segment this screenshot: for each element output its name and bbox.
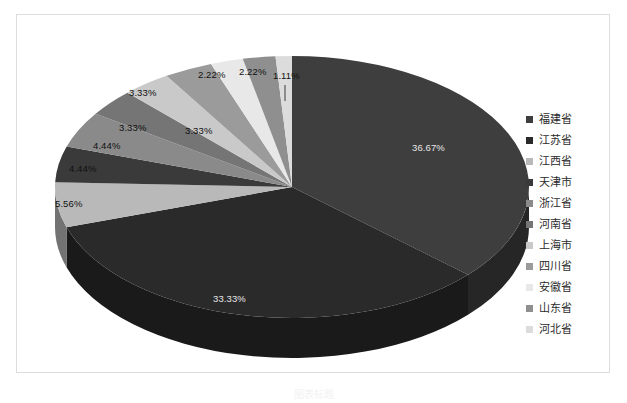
legend-swatch-icon bbox=[526, 284, 533, 291]
legend-item[interactable]: 四川省 bbox=[526, 256, 616, 277]
chart-legend: 福建省江苏省江西省天津市浙江省河南省上海市四川省安徽省山东省河北省 bbox=[526, 109, 616, 340]
legend-item-label: 河北省 bbox=[539, 319, 572, 340]
pie-slice-percentage-label: 33.33% bbox=[213, 293, 246, 304]
legend-item[interactable]: 浙江省 bbox=[526, 193, 616, 214]
legend-swatch-icon bbox=[526, 200, 533, 207]
legend-item[interactable]: 天津市 bbox=[526, 172, 616, 193]
pie-chart-svg bbox=[17, 15, 537, 374]
legend-item[interactable]: 山东省 bbox=[526, 298, 616, 319]
legend-swatch-icon bbox=[526, 326, 533, 333]
legend-item-label: 浙江省 bbox=[539, 193, 572, 214]
pie-slice-percentage-label: 3.33% bbox=[119, 122, 146, 133]
pie-chart-plot-area: 36.67%33.33%5.56%4.44%4.44%3.33%3.33%3.3… bbox=[17, 15, 611, 374]
pie-slice-percentage-label: 4.44% bbox=[93, 140, 120, 151]
legend-swatch-icon bbox=[526, 116, 533, 123]
pie-top-faces bbox=[55, 56, 529, 318]
legend-item[interactable]: 安徽省 bbox=[526, 277, 616, 298]
legend-item-label: 江西省 bbox=[539, 151, 572, 172]
legend-item-label: 四川省 bbox=[539, 256, 572, 277]
legend-item[interactable]: 上海市 bbox=[526, 235, 616, 256]
pie-slice-percentage-label: 3.33% bbox=[185, 125, 212, 136]
pie-slice-percentage-label: 3.33% bbox=[129, 87, 156, 98]
legend-item-label: 福建省 bbox=[539, 109, 572, 130]
legend-item-label: 上海市 bbox=[539, 235, 572, 256]
legend-item-label: 河南省 bbox=[539, 214, 572, 235]
legend-swatch-icon bbox=[526, 158, 533, 165]
legend-swatch-icon bbox=[526, 137, 533, 144]
pie-slice-percentage-label: 2.22% bbox=[239, 66, 266, 77]
legend-item-label: 安徽省 bbox=[539, 277, 572, 298]
pie-slice-percentage-label: 2.22% bbox=[198, 69, 225, 80]
legend-swatch-icon bbox=[526, 263, 533, 270]
pie-slice-percentage-label: 36.67% bbox=[412, 142, 445, 153]
chart-frame: 36.67%33.33%5.56%4.44%4.44%3.33%3.33%3.3… bbox=[16, 14, 610, 373]
legend-item-label: 天津市 bbox=[539, 172, 572, 193]
legend-item-label: 山东省 bbox=[539, 298, 572, 319]
legend-item[interactable]: 江西省 bbox=[526, 151, 616, 172]
pie-slice-percentage-label: 5.56% bbox=[55, 198, 82, 209]
legend-item[interactable]: 江苏省 bbox=[526, 130, 616, 151]
pie-slice-percentage-label: 4.44% bbox=[69, 163, 96, 174]
legend-swatch-icon bbox=[526, 305, 533, 312]
legend-item-label: 江苏省 bbox=[539, 130, 572, 151]
pie-slice-percentage-label: 1.11% bbox=[273, 70, 300, 81]
figure-caption: 图表标题 bbox=[0, 386, 627, 401]
legend-item[interactable]: 河北省 bbox=[526, 319, 616, 340]
legend-swatch-icon bbox=[526, 179, 533, 186]
legend-item[interactable]: 福建省 bbox=[526, 109, 616, 130]
legend-swatch-icon bbox=[526, 221, 533, 228]
legend-item[interactable]: 河南省 bbox=[526, 214, 616, 235]
legend-swatch-icon bbox=[526, 242, 533, 249]
